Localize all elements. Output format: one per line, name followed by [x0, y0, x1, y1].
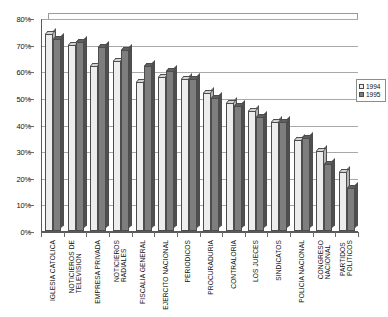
y-axis-tick [29, 72, 34, 73]
y-axis: 0%10%20%30%40%50%60%70%80% [0, 0, 34, 317]
bar-1995 [256, 117, 264, 231]
bar-1994 [90, 66, 98, 231]
bar-group [313, 19, 336, 231]
bar-group [42, 19, 65, 231]
bar-front-face [166, 71, 174, 231]
bar-1994 [45, 34, 53, 231]
y-axis-tick [29, 179, 34, 180]
bar-1994 [271, 122, 279, 231]
legend-label-1994: 1994 [366, 83, 380, 90]
y-axis-tick [29, 126, 34, 127]
y-axis-tick [29, 232, 34, 233]
bar-front-face [234, 106, 242, 231]
bar-group [177, 19, 200, 231]
x-axis-category-label: PROCURADURIA [199, 240, 222, 317]
plot-area [41, 19, 358, 232]
bar-1994 [339, 172, 347, 231]
x-axis-tick [154, 232, 155, 237]
legend-entry-1995: 1995 [359, 91, 383, 98]
legend-label-1995: 1995 [366, 91, 380, 98]
bar-group [200, 19, 223, 231]
x-axis-tick [41, 232, 42, 237]
bar-group [336, 19, 359, 231]
bar-front-face [144, 66, 152, 231]
bar-group [223, 19, 246, 231]
bar-group [155, 19, 178, 231]
bar-1995 [211, 98, 219, 231]
x-axis-ticks [41, 232, 358, 238]
bar-1994 [248, 111, 256, 231]
bar-group [290, 19, 313, 231]
bar-front-face [98, 47, 106, 231]
bar-front-face [181, 79, 189, 231]
bar-front-face [324, 164, 332, 231]
x-axis-category-label: CONGRESO NACIONAL [313, 240, 336, 317]
x-axis-category-label: FISCALIA GENERAL [132, 240, 155, 317]
y-axis-tick [29, 19, 34, 20]
bar-1995 [302, 138, 310, 231]
dark-swatch-icon [359, 92, 364, 97]
x-axis-tick [64, 232, 65, 237]
y-axis-tick [29, 152, 34, 153]
x-axis-tick [290, 232, 291, 237]
bar-front-face [158, 77, 166, 231]
x-axis-tick [200, 232, 201, 237]
bar-front-face [68, 45, 76, 231]
x-axis-tick [358, 232, 359, 237]
bar-side-face [355, 183, 358, 228]
bar-1994 [203, 93, 211, 231]
bar-group [110, 19, 133, 231]
bar-front-face [136, 82, 144, 231]
bar-front-face [226, 103, 234, 231]
x-axis-tick [132, 232, 133, 237]
bar-1995 [121, 50, 129, 231]
legend-entry-1994: 1994 [359, 83, 383, 90]
bar-front-face [53, 39, 61, 231]
bar-front-face [189, 79, 197, 231]
x-axis-category-label: CONTRALORIA [222, 240, 245, 317]
y-axis-tick [29, 46, 34, 47]
bar-1995 [76, 42, 84, 231]
x-axis-category-label: IGLESIA CATOLICA [41, 240, 64, 317]
light-swatch-icon [359, 84, 364, 89]
bar-1995 [324, 164, 332, 231]
bar-1995 [279, 122, 287, 231]
bar-1994 [113, 61, 121, 231]
x-axis-category-label: NOTICIEROS RADIALES [109, 240, 132, 317]
bar-group [65, 19, 88, 231]
x-axis-category-label: NOTICIEROS DE TELEVISION [64, 240, 87, 317]
bar-front-face [271, 122, 279, 231]
bar-1994 [226, 103, 234, 231]
bar-1995 [347, 188, 355, 231]
bar-1995 [189, 79, 197, 231]
bar-front-face [211, 98, 219, 231]
x-axis-category-label: SINDICATOS [267, 240, 290, 317]
bar-1995 [98, 47, 106, 231]
x-axis-category-label: PARTIDOS POLITICOS [335, 240, 358, 317]
bar-group [268, 19, 291, 231]
bar-front-face [76, 42, 84, 231]
bar-1995 [53, 39, 61, 231]
y-axis-tick [29, 99, 34, 100]
bar-front-face [302, 138, 310, 231]
bar-group [87, 19, 110, 231]
x-axis-category-label: POLICIA NACIONAL [290, 240, 313, 317]
x-axis-tick [177, 232, 178, 237]
bar-front-face [121, 50, 129, 231]
bar-1995 [166, 71, 174, 231]
bar-1994 [136, 82, 144, 231]
bar-series-container [42, 19, 358, 231]
bar-1994 [158, 77, 166, 231]
bar-front-face [339, 172, 347, 231]
x-axis-tick [335, 232, 336, 237]
bar-chart: 0%10%20%30%40%50%60%70%80% IGLESIA CATOL… [0, 0, 388, 317]
bar-1994 [294, 140, 302, 231]
x-axis-tick [267, 232, 268, 237]
bar-front-face [113, 61, 121, 231]
y-axis-tick [29, 205, 34, 206]
x-axis-tick [313, 232, 314, 237]
bar-front-face [90, 66, 98, 231]
x-axis-tick [109, 232, 110, 237]
x-axis-category-label: EMPRESA PRIVADA [86, 240, 109, 317]
bar-1995 [234, 106, 242, 231]
